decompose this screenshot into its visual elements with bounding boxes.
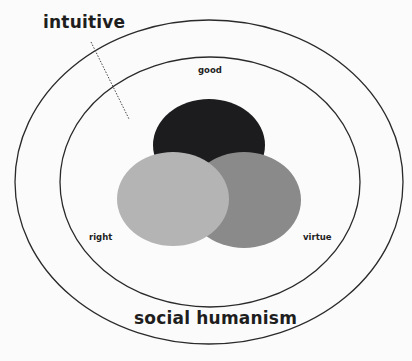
circle-right [117,152,229,246]
diagram-canvas: intuitive good right virtue social human… [0,0,412,361]
virtue-label: virtue [303,232,332,242]
intuitive-label: intuitive [43,12,125,32]
good-label: good [198,65,222,75]
social-humanism-label: social humanism [134,308,297,328]
right-label: right [89,232,112,242]
diagram-graphics [0,0,412,361]
